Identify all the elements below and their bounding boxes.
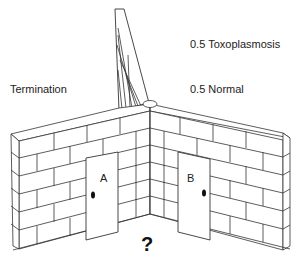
toxoplasmosis-branch-label: 0.5 Toxoplasmosis: [190, 38, 280, 50]
door-a[interactable]: [86, 152, 118, 240]
question-mark: ?: [141, 233, 153, 256]
right-wall: [150, 104, 290, 250]
normal-branch-label: 0.5 Normal: [190, 83, 244, 95]
door-a-knob: [91, 192, 95, 199]
door-b[interactable]: [178, 152, 210, 240]
termination-label: Termination: [10, 83, 67, 95]
door-a-label: A: [100, 172, 107, 184]
pivot-oval: [143, 101, 157, 108]
door-b-label: B: [187, 172, 194, 184]
left-wall: [11, 104, 150, 249]
door-b-knob: [202, 190, 206, 197]
decision-fin: [115, 9, 149, 110]
